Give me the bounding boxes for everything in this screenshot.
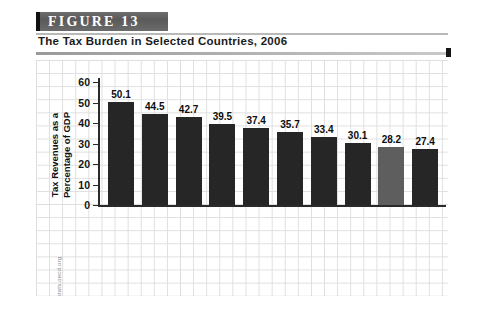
y-axis-tick-label: 30 (60, 138, 90, 150)
figure-subtitle: The Tax Burden in Selected Countries, 20… (38, 35, 287, 47)
y-axis-tick (93, 82, 98, 83)
figure-number-label: FIGURE 13 (48, 14, 140, 30)
bar[interactable] (108, 102, 134, 205)
y-axis-tick-label: 10 (60, 179, 90, 191)
bar[interactable] (345, 143, 371, 205)
y-axis-tick (93, 185, 98, 186)
title-rule-bottom (36, 52, 448, 55)
y-axis-tick (93, 205, 98, 206)
bar[interactable] (176, 117, 202, 205)
y-axis-tick-label: 60 (60, 76, 90, 88)
y-axis-tick (93, 103, 98, 104)
bar[interactable] (277, 132, 303, 205)
y-axis-line (98, 78, 100, 206)
y-axis-tick-label: 20 (60, 158, 90, 170)
y-axis-tick-label: 0 (60, 199, 90, 211)
bar[interactable] (412, 149, 438, 205)
bar[interactable] (243, 128, 269, 205)
y-axis-tick (93, 144, 98, 145)
bar[interactable] (311, 137, 337, 205)
title-rule-end-cap (446, 48, 451, 57)
y-axis-tick (93, 123, 98, 124)
y-axis-tick-label: 40 (60, 117, 90, 129)
bar[interactable] (209, 124, 235, 205)
x-axis-line (98, 205, 446, 207)
bar-value-label: 50.1 (101, 89, 141, 100)
bar-value-label: 27.4 (405, 136, 445, 147)
chart-panel: Tax Revenues as a Percentage of GDP 0102… (36, 60, 448, 296)
y-axis-title-line1: Tax Revenues as a (49, 113, 60, 197)
y-axis-tick-label: 50 (60, 97, 90, 109)
bar[interactable] (142, 114, 168, 205)
figure-banner-edge (36, 12, 40, 31)
y-axis-tick (93, 164, 98, 165)
bar[interactable] (378, 147, 404, 205)
figure-banner: FIGURE 13 (36, 12, 168, 31)
source-note: SOURCE: www.stats.oecd.org (56, 213, 62, 296)
